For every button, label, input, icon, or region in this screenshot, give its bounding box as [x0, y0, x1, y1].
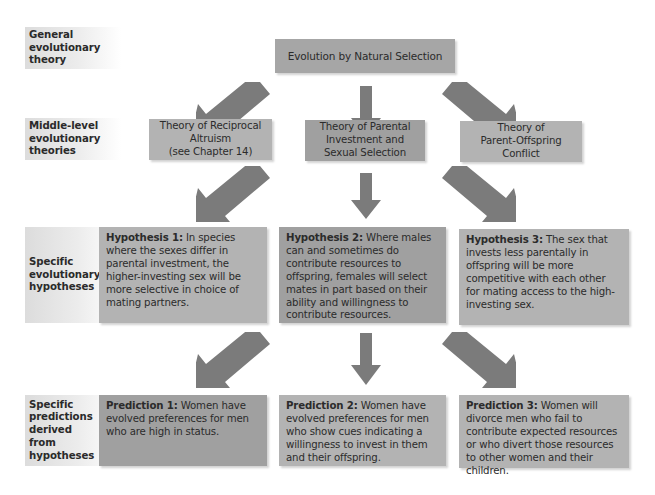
box-line: Parent-Offspring: [480, 135, 561, 148]
box-line: Conflict: [480, 148, 561, 161]
prediction-text: Women will divorce men who fail to contr…: [466, 400, 617, 476]
arrow-down-icon: [351, 333, 381, 385]
row-label-middle-level-theories: Middle-level evolutionary theories: [25, 118, 121, 160]
hypothesis-title: Hypothesis 1:: [106, 232, 183, 243]
arrow-down-icon: [351, 173, 381, 219]
box-prediction-1: Prediction 1: Women have evolved prefere…: [99, 395, 267, 466]
row-label-text: Specific predictions derived from hypoth…: [29, 399, 99, 463]
box-prediction-2: Prediction 2: Women have evolved prefere…: [279, 395, 446, 466]
row-label-general-theory: General evolutionary theory: [25, 27, 121, 69]
arrow-down-right-icon: [438, 332, 516, 390]
box-title: Evolution by Natural Selection: [288, 50, 442, 63]
row-label-text: Middle-level evolutionary theories: [29, 120, 99, 158]
box-reciprocal-altruism: Theory of Reciprocal Altruism (see Chapt…: [149, 119, 272, 160]
box-hypothesis-3: Hypothesis 3: The sex that invests less …: [459, 229, 629, 325]
arrow-down-right-icon: [438, 166, 516, 224]
box-parent-offspring-conflict: Theory of Parent-Offspring Conflict: [460, 121, 582, 162]
box-line: Theory of: [480, 122, 561, 135]
hypothesis-text: The sex that invests less parentally in …: [466, 234, 615, 310]
box-line: Altruism: [160, 133, 261, 146]
box-hypothesis-2: Hypothesis 2: Where males can and someti…: [279, 227, 446, 323]
arrow-down-left-icon: [196, 332, 274, 390]
prediction-title: Prediction 1:: [106, 400, 178, 411]
arrow-down-left-icon: [196, 166, 274, 224]
box-line: Theory of Reciprocal: [160, 120, 261, 133]
box-line: Theory of Parental: [320, 121, 411, 134]
prediction-title: Prediction 2:: [286, 400, 358, 411]
box-parental-investment-sexual-selection: Theory of Parental Investment and Sexual…: [305, 120, 425, 161]
box-prediction-3: Prediction 3: Women will divorce men who…: [459, 395, 629, 468]
box-line: Sexual Selection: [320, 147, 411, 160]
row-label-text: General evolutionary theory: [29, 29, 99, 67]
hypothesis-text: Where males can and sometimes do contrib…: [286, 232, 431, 320]
box-hypothesis-1: Hypothesis 1: In species where the sexes…: [99, 227, 267, 323]
box-line: (see Chapter 14): [160, 146, 261, 159]
box-evolution-by-natural-selection: Evolution by Natural Selection: [275, 39, 455, 73]
hypothesis-title: Hypothesis 2:: [286, 232, 363, 243]
hypothesis-text: In species where the sexes differ in par…: [106, 232, 241, 308]
row-label-text: Specific evolutionary hypotheses: [29, 256, 99, 294]
hypothesis-title: Hypothesis 3:: [466, 234, 543, 245]
box-line: Investment and: [320, 134, 411, 147]
prediction-title: Prediction 3:: [466, 400, 538, 411]
